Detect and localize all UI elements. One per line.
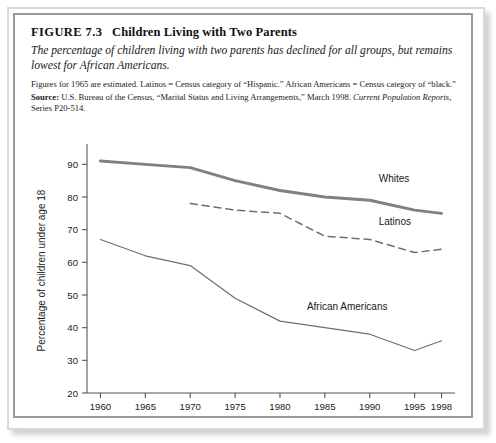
- chart-plot-area: Percentage of children under age 18 2030…: [31, 142, 463, 425]
- y-tick-label: 60: [67, 257, 78, 268]
- x-tick-label: 1970: [180, 401, 201, 412]
- data-series-group: [100, 161, 441, 350]
- y-tick-label: 40: [67, 322, 78, 333]
- figure-note: Figures for 1965 are estimated. Latinos …: [31, 79, 461, 90]
- y-tick-label: 80: [67, 192, 78, 203]
- line-chart-svg: Percentage of children under age 18 2030…: [31, 142, 463, 425]
- source-label: Source:: [31, 92, 59, 102]
- source-publication: Current Population Reports,: [353, 92, 451, 102]
- source-text-primary: U.S. Bureau of the Census, “Marital Stat…: [61, 92, 351, 102]
- x-tick-label: 1995: [404, 401, 425, 412]
- figure-outer-border: FIGURE 7.3 Children Living with Two Pare…: [7, 7, 485, 430]
- x-tick-label: 1990: [359, 401, 380, 412]
- figure-source: Source: U.S. Bureau of the Census, “Mari…: [31, 92, 461, 114]
- x-tick-label: 1960: [90, 401, 111, 412]
- y-axis-ticks-group: 2030405060708090: [67, 159, 87, 399]
- series-label-latinos: Latinos: [379, 216, 411, 227]
- series-line-latinos: [190, 204, 441, 253]
- series-label-whites: Whites: [379, 173, 410, 184]
- x-tick-label: 1975: [224, 401, 245, 412]
- series-line-african-americans: [100, 239, 441, 350]
- x-tick-label: 1965: [135, 401, 156, 412]
- series-labels-group: WhitesLatinosAfrican Americans: [307, 173, 411, 311]
- y-tick-label: 90: [67, 159, 78, 170]
- figure-inner-border: FIGURE 7.3 Children Living with Two Pare…: [13, 13, 473, 418]
- x-tick-label: 1998: [431, 401, 452, 412]
- y-tick-label: 50: [67, 290, 78, 301]
- series-line-whites: [100, 161, 441, 213]
- source-series: Series P20-514.: [31, 103, 85, 113]
- figure-title: Children Living with Two Parents: [112, 25, 297, 39]
- y-tick-label: 70: [67, 224, 78, 235]
- figure-caption-block: FIGURE 7.3 Children Living with Two Pare…: [31, 25, 461, 114]
- y-axis-title: Percentage of children under age 18: [36, 189, 47, 351]
- y-tick-label: 20: [67, 388, 78, 399]
- figure-number: FIGURE 7.3: [31, 25, 102, 39]
- y-axis-title-group: Percentage of children under age 18: [36, 189, 47, 351]
- figure-subtitle: The percentage of children living with t…: [31, 43, 461, 74]
- series-label-african-americans: African Americans: [307, 301, 388, 312]
- y-tick-label: 30: [67, 355, 78, 366]
- x-axis-ticks-group: 196019651970197519801985199019951998: [90, 393, 452, 412]
- x-tick-label: 1985: [314, 401, 335, 412]
- x-tick-label: 1980: [269, 401, 290, 412]
- figure-title-line: FIGURE 7.3 Children Living with Two Pare…: [31, 25, 461, 40]
